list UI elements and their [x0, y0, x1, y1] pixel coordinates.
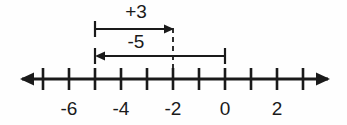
tick-label-zero: 0 — [220, 98, 231, 119]
jump-plus-3-label: +3 — [125, 1, 147, 22]
tick-label-two: 2 — [272, 98, 283, 119]
axis-group — [20, 73, 330, 86]
tick-label-minus-6: -6 — [61, 98, 78, 119]
jump-minus-5-arrowhead — [95, 52, 105, 61]
axis-left-arrowhead — [20, 73, 34, 86]
tick-labels-group: -6 -4 -2 0 2 — [61, 98, 283, 119]
tick-label-minus-4: -4 — [113, 98, 130, 119]
number-line-figure: -6 -4 -2 0 2 +3 -5 — [0, 0, 347, 125]
jump-arrow-minus-5: -5 — [95, 31, 225, 64]
jump-minus-5-label: -5 — [128, 31, 145, 52]
tick-label-minus-2: -2 — [165, 98, 182, 119]
axis-right-arrowhead — [316, 73, 330, 86]
number-line-canvas: -6 -4 -2 0 2 +3 -5 — [0, 0, 347, 125]
